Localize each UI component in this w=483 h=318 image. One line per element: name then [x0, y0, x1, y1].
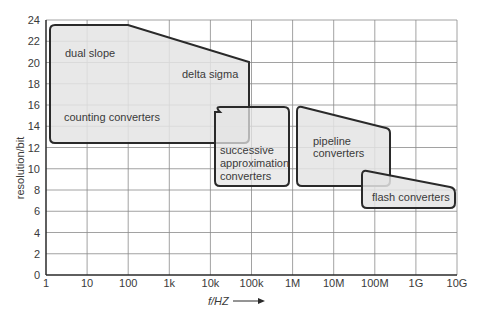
- y-axis-title: resolution/bit: [14, 137, 26, 199]
- x-tick-label: 10G: [447, 277, 468, 289]
- x-tick-label: 10k: [202, 277, 220, 289]
- y-tick-label: 6: [34, 205, 40, 217]
- label-approximation: approximation: [220, 157, 289, 169]
- y-tick-label: 2: [34, 248, 40, 260]
- label-delta-sigma: delta sigma: [182, 68, 239, 80]
- x-tick-label: 1M: [285, 277, 300, 289]
- y-tick-label: 22: [28, 35, 40, 47]
- x-tick-label: 1: [43, 277, 49, 289]
- label-counting-converters: counting converters: [64, 111, 160, 123]
- label-successive: successive: [220, 144, 274, 156]
- y-tick-label: 18: [28, 78, 40, 90]
- y-tick-labels: 024681012141618202224: [28, 14, 40, 281]
- y-tick-label: 14: [28, 120, 40, 132]
- resolution-vs-frequency-chart: 024681012141618202224 1101001k10k100k1M1…: [0, 0, 483, 318]
- x-axis-title: f/HZ: [208, 295, 230, 307]
- y-tick-label: 24: [28, 14, 40, 26]
- label-pipeline: pipeline: [313, 135, 351, 147]
- y-tick-label: 8: [34, 184, 40, 196]
- y-tick-label: 20: [28, 57, 40, 69]
- y-tick-label: 10: [28, 163, 40, 175]
- y-tick-label: 16: [28, 99, 40, 111]
- x-tick-label: 10: [81, 277, 93, 289]
- right-arrow-icon: [233, 298, 265, 304]
- y-tick-label: 4: [34, 227, 40, 239]
- x-tick-label: 100k: [240, 277, 264, 289]
- label-sa-converters: converters: [220, 170, 272, 182]
- label-dual-slope: dual slope: [65, 47, 115, 59]
- x-tick-label: 10M: [323, 277, 344, 289]
- x-tick-label: 100M: [361, 277, 389, 289]
- label-flash-converters: flash converters: [372, 191, 450, 203]
- x-tick-labels: 1101001k10k100k1M10M100M1G10G: [43, 277, 467, 289]
- x-tick-label: 100: [119, 277, 137, 289]
- label-pipeline-converters: converters: [313, 147, 365, 159]
- x-tick-label: 1k: [163, 277, 175, 289]
- x-tick-label: 1G: [409, 277, 424, 289]
- y-tick-label: 12: [28, 142, 40, 154]
- y-tick-label: 0: [34, 269, 40, 281]
